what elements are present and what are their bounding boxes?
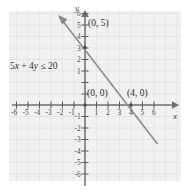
y-tick-label-2: 2 bbox=[77, 56, 81, 63]
inequality-plus: + bbox=[21, 61, 26, 71]
y-tick-label--6: -6 bbox=[75, 171, 81, 178]
point-0-5 bbox=[83, 46, 86, 49]
y-tick-label-1: 1 bbox=[77, 68, 81, 75]
x-tick-label-3: 3 bbox=[118, 109, 122, 116]
label-point-y-intercept: (0, 5) bbox=[88, 19, 109, 29]
y-tick-label--3: -3 bbox=[75, 136, 81, 143]
x-tick-label--3: -3 bbox=[46, 109, 52, 116]
label-point-x-intercept: (4, 0) bbox=[127, 89, 148, 99]
x-tick-label--4: -4 bbox=[34, 109, 40, 116]
inequality-relation: ≤ bbox=[40, 61, 45, 71]
y-tick-label-4: 4 bbox=[77, 33, 81, 40]
label-point-origin: (0, 0) bbox=[87, 89, 108, 99]
inequality-graph-figure: -6 -5 -4 -3 -2 -1 1 2 3 4 5 6 6 5 4 3 2 … bbox=[0, 0, 190, 195]
x-tick-label--5: -5 bbox=[23, 109, 29, 116]
x-tick-label-2: 2 bbox=[106, 109, 110, 116]
y-tick-label--5: -5 bbox=[75, 159, 81, 166]
x-tick-label-1: 1 bbox=[95, 109, 99, 116]
inequality-label: 5x + 4y ≤ 20 bbox=[10, 62, 58, 72]
inequality-var-y: y bbox=[34, 61, 38, 71]
x-tick-label-6: 6 bbox=[152, 109, 156, 116]
x-tick-label-5: 5 bbox=[141, 109, 145, 116]
y-axis-label: y bbox=[75, 4, 79, 13]
point-4-0 bbox=[129, 103, 132, 106]
inequality-var-x: x bbox=[15, 61, 19, 71]
x-tick-label-4: 4 bbox=[129, 109, 133, 116]
y-tick-label-5: 5 bbox=[77, 22, 81, 29]
point-0-0 bbox=[83, 103, 86, 106]
y-tick-label-3: 3 bbox=[77, 45, 81, 52]
inequality-constant: 20 bbox=[48, 61, 58, 71]
y-tick-label--4: -4 bbox=[75, 148, 81, 155]
x-tick-label--2: -2 bbox=[57, 109, 63, 116]
y-tick-label--1: -1 bbox=[75, 113, 81, 120]
x-axis-label: x bbox=[173, 112, 177, 121]
y-tick-label--2: -2 bbox=[75, 125, 81, 132]
x-tick-label--6: -6 bbox=[11, 109, 17, 116]
